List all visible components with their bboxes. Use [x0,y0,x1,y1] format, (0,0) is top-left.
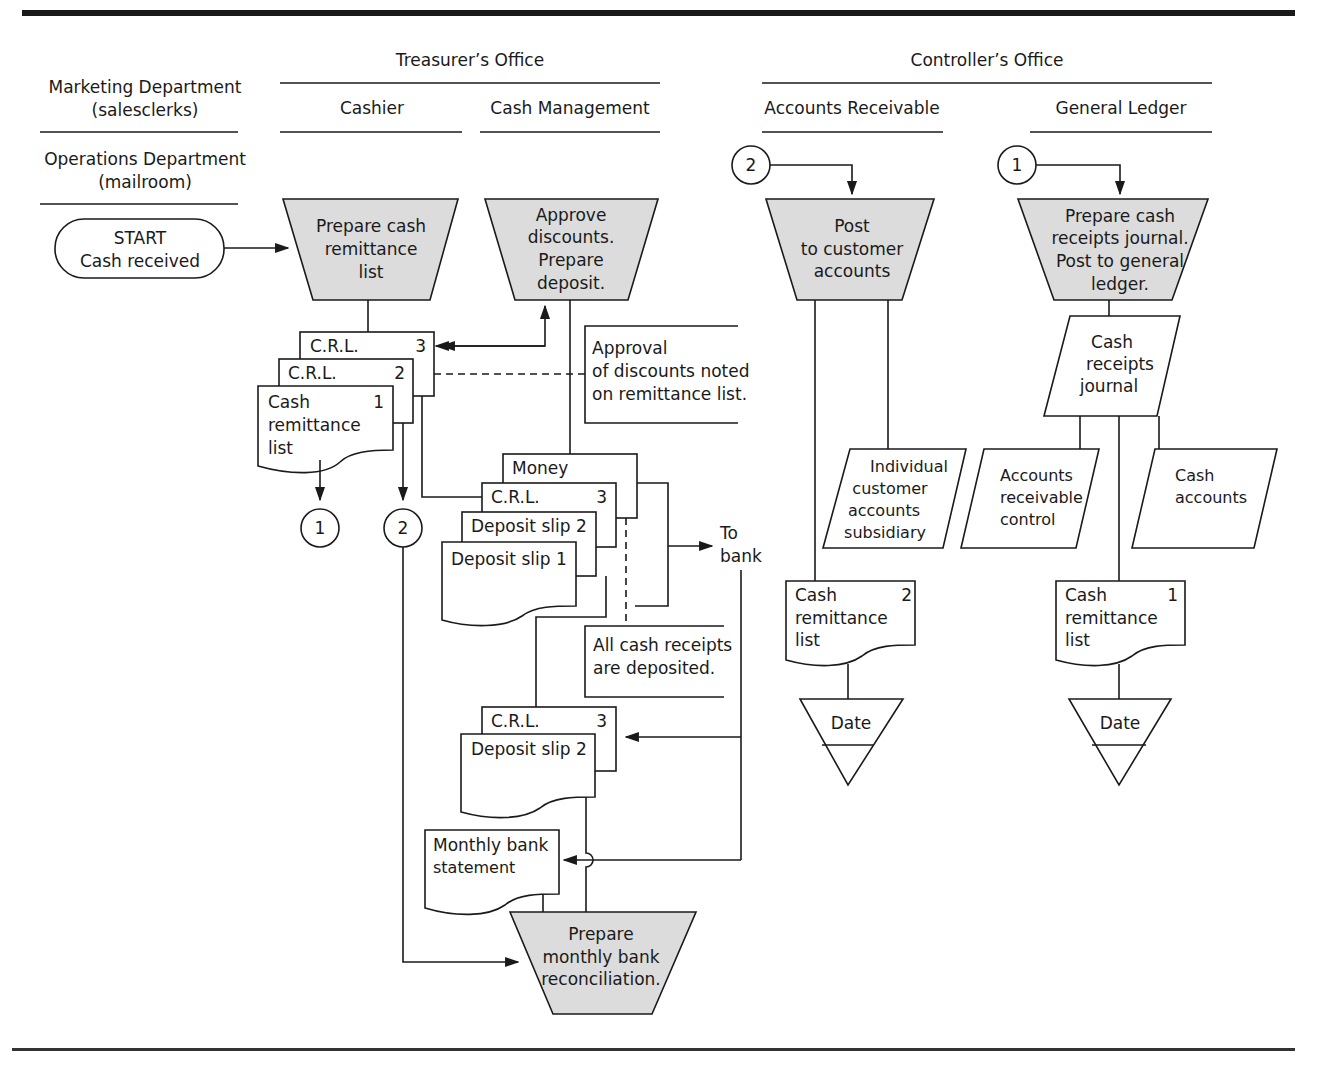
gl-cash-remittance-list-1: Cash remittance list 1 [1056,581,1185,666]
ledger-cash-receipts-journal: Cash receipts journal [1044,316,1180,416]
file-by-date-ar: Date [800,699,903,785]
process-post-customer-accounts: Post to customer accounts [766,199,934,300]
svg-text:1: 1 [373,392,384,412]
svg-text:receipts: receipts [1086,354,1154,374]
process-bank-reconciliation: Prepare monthly bank reconciliation. [510,912,696,1014]
svg-text:Money: Money [512,458,568,478]
marketing-dept-sub: (salesclerks) [92,100,199,120]
svg-text:remittance: remittance [268,415,361,435]
svg-text:deposit.: deposit. [537,273,605,293]
svg-text:subsidiary: subsidiary [844,523,926,542]
svg-text:START: START [114,228,167,248]
svg-text:remittance: remittance [1065,608,1158,628]
svg-text:list: list [359,262,384,282]
svg-text:Post to general: Post to general [1056,251,1184,271]
svg-text:customer: customer [852,479,928,498]
accounts-receivable-label: Accounts Receivable [764,98,939,118]
operations-dept-label: Operations Department [44,149,246,169]
svg-text:list: list [795,630,820,650]
svg-text:list: list [268,438,293,458]
svg-text:Post: Post [834,216,870,236]
controllers-office-label: Controller’s Office [911,50,1064,70]
svg-text:remittance: remittance [325,239,418,259]
svg-text:All cash receipts: All cash receipts [593,635,732,655]
svg-text:discounts.: discounts. [528,227,615,247]
svg-text:receipts journal.: receipts journal. [1051,228,1188,248]
svg-text:3: 3 [596,711,607,731]
svg-text:Individual: Individual [870,457,948,476]
svg-text:Cash: Cash [268,392,310,412]
svg-text:1: 1 [1167,585,1178,605]
process-approve-discounts: Approve discounts. Prepare deposit. [485,199,658,300]
svg-text:monthly bank: monthly bank [542,947,659,967]
operations-dept-sub: (mailroom) [98,172,192,192]
cash-remittance-list-1: Cash remittance list 1 [258,386,393,473]
connector-2: 2 [384,509,422,547]
cash-management-label: Cash Management [490,98,650,118]
deposit-slip-1: Deposit slip 1 [442,542,576,626]
treasurers-office-label: Treasurer’s Office [395,50,544,70]
svg-text:2: 2 [394,363,405,383]
svg-text:accounts: accounts [848,501,920,520]
svg-text:2: 2 [901,585,912,605]
cashier-label: Cashier [340,98,404,118]
svg-text:1: 1 [315,518,326,538]
connector-1-in: 1 [998,146,1036,184]
svg-text:statement: statement [433,858,515,877]
connector-2-in: 2 [732,146,770,184]
svg-text:C.R.L.: C.R.L. [310,336,359,356]
svg-text:Date: Date [1100,713,1141,733]
svg-text:accounts: accounts [814,261,891,281]
svg-text:Approve: Approve [536,205,607,225]
ar-cash-remittance-list-2: Cash remittance list 2 [786,581,915,666]
svg-text:3: 3 [415,336,426,356]
svg-text:C.R.L.: C.R.L. [491,487,540,507]
svg-text:Cash: Cash [795,585,837,605]
svg-text:Approval: Approval [592,338,667,358]
returned-deposit-slip-2: Deposit slip 2 [461,734,595,818]
svg-text:C.R.L.: C.R.L. [288,363,337,383]
svg-text:journal: journal [1079,376,1139,396]
to-bank-bracket [635,483,668,606]
svg-text:receivable: receivable [1000,488,1083,507]
svg-text:control: control [1000,510,1055,529]
svg-text:Prepare: Prepare [568,924,633,944]
annotation-all-deposited: All cash receipts are deposited. [585,626,732,697]
ledger-individual-customer-accounts: Individual customer accounts subsidiary [823,449,966,548]
svg-text:Deposit slip 2: Deposit slip 2 [471,516,587,536]
svg-text:remittance: remittance [795,608,888,628]
flow-line [586,797,593,912]
to-bank-label-2: bank [720,546,762,566]
svg-text:Accounts: Accounts [1000,466,1073,485]
svg-text:ledger.: ledger. [1091,274,1149,294]
svg-text:Cash: Cash [1175,466,1214,485]
flow-line [422,396,482,497]
process-prepare-remittance-list: Prepare cash remittance list [283,199,458,300]
svg-text:Prepare cash: Prepare cash [316,216,426,236]
svg-text:3: 3 [596,487,607,507]
svg-text:Prepare: Prepare [538,250,603,270]
svg-text:to customer: to customer [801,239,904,259]
svg-text:are deposited.: are deposited. [593,658,715,678]
bottom-rule [12,1048,1295,1051]
svg-text:reconciliation.: reconciliation. [541,969,661,989]
connector-1: 1 [301,509,339,547]
svg-text:Deposit slip 2: Deposit slip 2 [471,739,587,759]
cash-receipts-flowchart: Marketing Department (salesclerks) Opera… [0,0,1317,1068]
general-ledger-label: General Ledger [1055,98,1186,118]
top-rule [22,10,1295,16]
svg-text:Cash: Cash [1091,332,1133,352]
svg-text:Date: Date [831,713,872,733]
start-terminal: START Cash received [55,219,224,278]
file-by-date-gl: Date [1069,699,1171,785]
svg-text:Cash received: Cash received [80,251,200,271]
process-prepare-cash-receipts-journal: Prepare cash receipts journal. Post to g… [1018,199,1208,300]
svg-text:C.R.L.: C.R.L. [491,711,540,731]
annotation-approval: Approval of discounts noted on remittanc… [585,326,749,423]
ledger-ar-control: Accounts receivable control [961,449,1099,548]
svg-text:Deposit slip 1: Deposit slip 1 [451,549,567,569]
column-headers: Marketing Department (salesclerks) Opera… [40,50,1212,204]
marketing-dept-label: Marketing Department [48,77,241,97]
svg-text:2: 2 [398,518,409,538]
svg-text:2: 2 [746,155,757,175]
